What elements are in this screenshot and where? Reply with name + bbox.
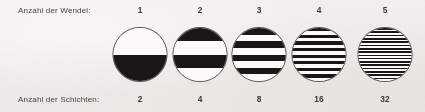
layer-band-stack	[113, 28, 168, 81]
coil-cross-section-circle	[358, 27, 413, 82]
layer-band	[232, 35, 287, 42]
layer-count-value: 8	[257, 94, 262, 104]
coil-count-value: 4	[317, 5, 322, 15]
layer-band	[292, 78, 347, 81]
layer-band	[173, 68, 228, 81]
layer-band-stack	[173, 28, 228, 81]
coil-cross-section-circle	[292, 27, 347, 82]
layer-band	[358, 79, 413, 81]
layer-band	[173, 28, 228, 41]
layer-band	[173, 41, 228, 54]
coil-count-value: 3	[257, 5, 262, 15]
layer-count-row-label: Anzahl der Schichten:	[18, 95, 99, 104]
layer-band-stack	[232, 28, 287, 81]
coil-count-value: 2	[198, 5, 203, 15]
layer-band	[232, 61, 287, 68]
layer-band-stack	[358, 28, 413, 81]
layer-count-value: 2	[138, 94, 143, 104]
coil-count-value: 5	[383, 5, 388, 15]
coil-count-row-label: Anzahl der Wendel:	[18, 6, 91, 15]
layer-band	[173, 55, 228, 68]
coil-cross-section-circle	[232, 27, 287, 82]
layer-band	[113, 28, 168, 55]
layer-band	[232, 68, 287, 75]
layer-band	[232, 41, 287, 48]
layer-count-value: 4	[198, 94, 203, 104]
coil-cross-section-circle	[173, 27, 228, 82]
layer-band-stack	[292, 28, 347, 81]
layer-band	[232, 74, 287, 81]
layer-count-value: 16	[314, 94, 323, 104]
layer-band	[232, 55, 287, 62]
coil-layer-figure: Anzahl der Wendel: Anzahl der Schichten:…	[0, 0, 425, 112]
coil-cross-section-circle	[113, 27, 168, 82]
layer-band	[113, 55, 168, 82]
layer-band	[232, 28, 287, 35]
layer-count-value: 32	[380, 94, 389, 104]
layer-band	[232, 48, 287, 55]
coil-count-value: 1	[138, 5, 143, 15]
